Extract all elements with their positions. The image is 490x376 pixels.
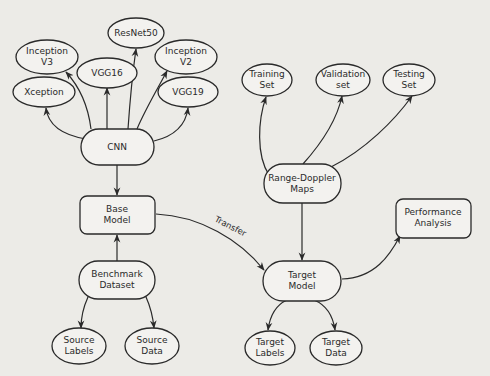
svg-text:Set: Set bbox=[402, 80, 417, 90]
edge-cnn-xception bbox=[46, 108, 86, 139]
node-target-data: Target Data bbox=[310, 331, 362, 365]
node-validation-set: Validation set bbox=[316, 64, 370, 96]
svg-text:Base: Base bbox=[106, 204, 128, 214]
diagram-canvas: Transfer ResNet50 Inception V3 VGG16 Inc… bbox=[0, 0, 490, 376]
svg-text:VGG16: VGG16 bbox=[91, 68, 123, 78]
node-source-labels: Source Labels bbox=[52, 328, 106, 364]
svg-text:Set: Set bbox=[260, 80, 275, 90]
node-resnet50: ResNet50 bbox=[108, 18, 164, 48]
node-vgg19: VGG19 bbox=[158, 77, 218, 107]
svg-text:V3: V3 bbox=[41, 57, 53, 67]
svg-text:Xception: Xception bbox=[24, 87, 64, 97]
edge-benchmark-sourcelabels bbox=[81, 297, 88, 328]
edge-targetmodel-targetlabels bbox=[268, 300, 287, 330]
node-inception-v2: Inception V2 bbox=[155, 40, 217, 74]
node-inception-v3: Inception V3 bbox=[16, 40, 78, 74]
svg-text:Maps: Maps bbox=[290, 184, 314, 194]
svg-text:Labels: Labels bbox=[65, 346, 94, 356]
node-base-model: Base Model bbox=[80, 196, 155, 234]
node-cnn: CNN bbox=[81, 129, 154, 165]
svg-text:Labels: Labels bbox=[256, 348, 285, 358]
node-performance-analysis: Performance Analysis bbox=[396, 199, 471, 238]
svg-text:Dataset: Dataset bbox=[99, 280, 135, 290]
svg-text:Inception: Inception bbox=[26, 46, 68, 56]
svg-text:Testing: Testing bbox=[392, 69, 425, 79]
edge-benchmark-sourcedata bbox=[146, 297, 154, 328]
svg-text:Validation: Validation bbox=[321, 69, 365, 79]
svg-text:Source: Source bbox=[137, 335, 168, 345]
node-benchmark-dataset: Benchmark Dataset bbox=[79, 261, 155, 299]
node-testing-set: Testing Set bbox=[383, 64, 435, 96]
node-source-data: Source Data bbox=[125, 328, 179, 364]
svg-text:Source: Source bbox=[64, 335, 95, 345]
edge-rangedoppler-validation bbox=[303, 96, 342, 164]
svg-text:Target: Target bbox=[255, 337, 284, 347]
svg-text:Benchmark: Benchmark bbox=[91, 269, 143, 279]
edge-rangedoppler-testing bbox=[331, 96, 412, 167]
svg-text:Range-Doppler: Range-Doppler bbox=[268, 173, 336, 183]
svg-text:Data: Data bbox=[141, 346, 163, 356]
edge-label-transfer: Transfer bbox=[212, 213, 248, 238]
svg-text:Inception: Inception bbox=[165, 46, 207, 56]
node-range-doppler-maps: Range-Doppler Maps bbox=[264, 164, 341, 203]
edge-targetmodel-targetdata bbox=[314, 300, 335, 330]
svg-text:Training: Training bbox=[248, 69, 285, 79]
node-target-model: Target Model bbox=[263, 261, 341, 301]
edge-basemodel-targetmodel bbox=[156, 214, 264, 270]
svg-text:Performance: Performance bbox=[404, 207, 461, 217]
node-training-set: Training Set bbox=[242, 64, 292, 96]
svg-text:Model: Model bbox=[103, 215, 130, 225]
svg-text:Analysis: Analysis bbox=[414, 218, 451, 228]
node-vgg16: VGG16 bbox=[77, 58, 137, 88]
svg-text:Target: Target bbox=[321, 337, 350, 347]
node-target-labels: Target Labels bbox=[245, 331, 295, 365]
svg-text:ResNet50: ResNet50 bbox=[114, 28, 158, 38]
edge-targetmodel-performance bbox=[342, 236, 400, 279]
svg-text:Model: Model bbox=[288, 281, 315, 291]
edge-cnn-vgg19 bbox=[154, 108, 188, 141]
svg-text:set: set bbox=[336, 80, 350, 90]
svg-text:V2: V2 bbox=[180, 57, 192, 67]
svg-text:Target: Target bbox=[287, 270, 316, 280]
node-xception: Xception bbox=[13, 77, 75, 107]
svg-text:VGG19: VGG19 bbox=[172, 87, 204, 97]
diagram-svg: Transfer ResNet50 Inception V3 VGG16 Inc… bbox=[0, 0, 490, 376]
svg-text:CNN: CNN bbox=[107, 142, 127, 152]
edge-cnn-resnet50 bbox=[128, 49, 136, 129]
svg-text:Data: Data bbox=[325, 348, 347, 358]
edge-rangedoppler-training bbox=[260, 97, 269, 175]
